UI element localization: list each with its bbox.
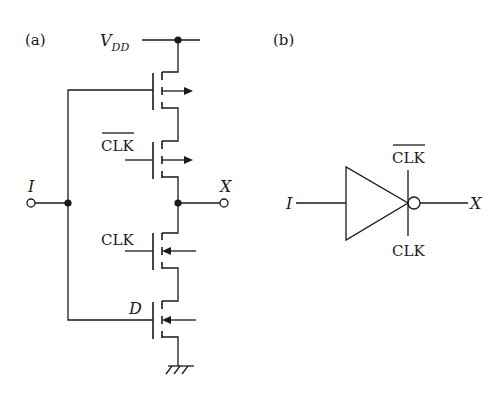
t3-gate-label: CLK bbox=[101, 231, 134, 249]
wire-t4-gnd bbox=[162, 337, 178, 366]
t4-arrow-in-icon bbox=[162, 316, 171, 324]
panel-a-label: (a) bbox=[25, 31, 46, 49]
t2-arrow-out-icon bbox=[184, 156, 193, 164]
t4-gate-label: D bbox=[128, 299, 142, 318]
transistor-t3-nmos bbox=[125, 233, 196, 301]
transistor-t1-pmos bbox=[153, 72, 193, 141]
panel-a: (a) VDD bbox=[25, 31, 232, 374]
symbol-top-clk-label: CLK bbox=[392, 149, 425, 167]
symbol-input-label-i: I bbox=[285, 194, 293, 213]
wire-vdd-t1 bbox=[162, 40, 178, 72]
wire-t2-x bbox=[162, 177, 178, 203]
inverter-bubble-icon bbox=[408, 197, 420, 209]
ground-icon bbox=[166, 366, 194, 374]
t2-gate-label: CLK bbox=[101, 137, 134, 155]
inverter-triangle-icon bbox=[346, 167, 408, 240]
transistor-t2-pmos bbox=[125, 141, 193, 203]
symbol-bottom-clk-label: CLK bbox=[392, 242, 425, 260]
circuit-figure: (a) VDD bbox=[0, 0, 503, 402]
input-label-i: I bbox=[27, 177, 35, 196]
panel-b: (b) I X CLK CLK bbox=[273, 31, 482, 260]
symbol-output-label-x: X bbox=[468, 194, 482, 213]
output-terminal-x bbox=[220, 199, 228, 207]
wire-t1-t2 bbox=[162, 108, 178, 141]
vdd-label: VDD bbox=[100, 31, 129, 54]
t3-arrow-in-icon bbox=[162, 247, 171, 255]
wire-t3-t4 bbox=[162, 268, 178, 301]
t1-arrow-out-icon bbox=[184, 87, 193, 95]
wire-x-t3 bbox=[162, 203, 178, 233]
output-label-x: X bbox=[218, 177, 232, 196]
panel-b-label: (b) bbox=[273, 31, 294, 49]
transistor-t4-nmos bbox=[153, 301, 196, 366]
input-terminal-i bbox=[27, 199, 35, 207]
